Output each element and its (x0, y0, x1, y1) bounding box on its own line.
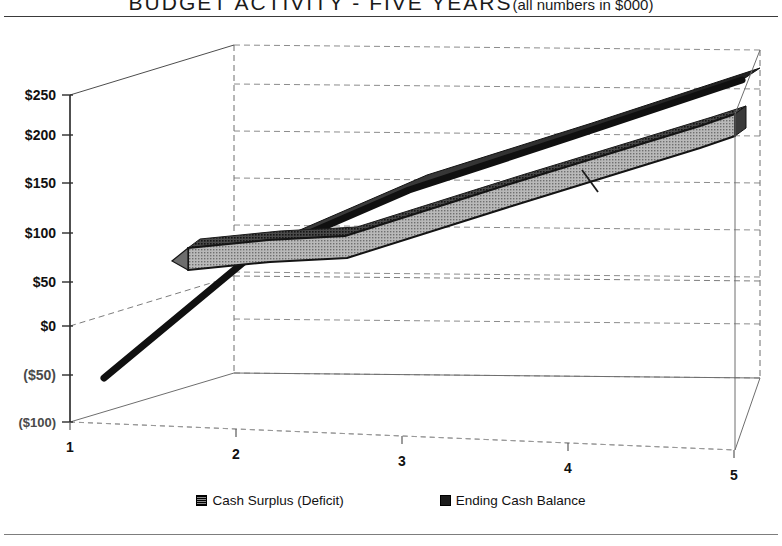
x-tick-label: 1 (66, 439, 74, 455)
y-tick-label: $50 (33, 274, 57, 290)
left-wall (70, 45, 234, 422)
floor-plane (70, 373, 760, 450)
chart-title-sub: (all numbers in $000) (513, 0, 654, 13)
legend-swatch-icon (196, 495, 207, 506)
top-rule-divider (4, 16, 778, 17)
bottom-rule-divider (4, 534, 778, 535)
legend-swatch-icon (440, 495, 451, 506)
y-tick-label: $100 (25, 225, 56, 241)
series-cash-surplus-deficit (172, 106, 746, 270)
x-tick-label: 4 (564, 460, 572, 476)
chart-legend: Cash Surplus (Deficit) Ending Cash Balan… (0, 489, 782, 511)
chart-title-main: BUDGET ACTIVITY - FIVE YEARS (129, 0, 513, 14)
y-tick-label: $200 (25, 127, 56, 143)
x-tick-label: 2 (232, 446, 240, 462)
x-tick-label: 3 (398, 453, 406, 469)
legend-item-ending-cash-balance[interactable]: Ending Cash Balance (440, 493, 586, 508)
y-axis-ticks (62, 95, 73, 422)
chart-page: BUDGET ACTIVITY - FIVE YEARS(all numbers… (0, 0, 782, 546)
x-tick-label: 5 (730, 467, 738, 483)
legend-label: Ending Cash Balance (456, 493, 586, 508)
y-tick-label: ($100) (18, 415, 56, 430)
chart-title: BUDGET ACTIVITY - FIVE YEARS(all numbers… (0, 0, 782, 17)
chart-plot-area: $250 $200 $150 $100 $50 $0 ($50) ($100) … (0, 18, 782, 488)
y-axis-tick-labels: $250 $200 $150 $100 $50 $0 ($50) ($100) (18, 87, 56, 430)
y-tick-label: $250 (25, 87, 56, 103)
legend-item-cash-surplus[interactable]: Cash Surplus (Deficit) (196, 493, 343, 508)
y-tick-label: ($50) (23, 367, 56, 383)
legend-label: Cash Surplus (Deficit) (212, 493, 343, 508)
y-tick-label: $0 (40, 318, 56, 334)
y-tick-label: $150 (25, 175, 56, 191)
